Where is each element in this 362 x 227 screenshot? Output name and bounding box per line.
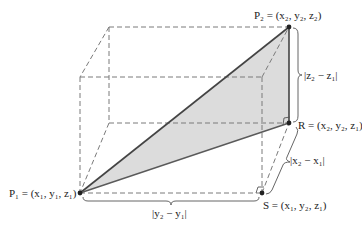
label-dy: |y₂ − y₁| [152, 207, 187, 219]
point-p2 [287, 25, 292, 30]
distance-3d-diagram: P₂ = (x₂, y₂, z₂) |z₂ − z₁| R = (x₂, y₂,… [0, 0, 362, 227]
point-p1 [78, 191, 83, 196]
brace-dz [293, 28, 302, 122]
point-s [260, 191, 265, 196]
brace-dy [83, 197, 259, 205]
label-dz: |z₂ − z₁| [304, 69, 338, 81]
label-p1: P₁ = (x₁, y₁, z₁) [9, 187, 77, 200]
label-r: R = (x₂, y₂, z₁) [298, 119, 362, 132]
label-s: S = (x₁, y₂, z₁) [263, 199, 327, 212]
label-p2: P₂ = (x₂, y₂, z₂) [254, 9, 322, 22]
point-r [287, 121, 292, 126]
label-dx: |x₂ − x₁| [290, 154, 325, 166]
